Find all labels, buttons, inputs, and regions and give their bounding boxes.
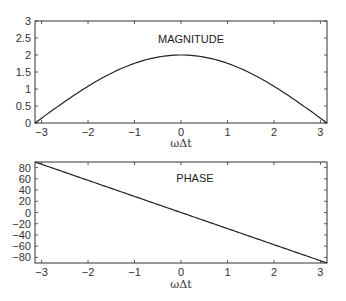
x-tick-label: −2 bbox=[82, 126, 95, 138]
x-tick-label: −3 bbox=[35, 126, 48, 138]
y-tick-label: 40 bbox=[19, 184, 31, 196]
y-tick-label: −80 bbox=[12, 251, 31, 263]
phase-xlabel: ωΔt bbox=[170, 278, 192, 291]
x-tick-label: 3 bbox=[317, 126, 323, 138]
x-tick-label: 3 bbox=[317, 266, 323, 278]
y-tick-label: 1 bbox=[25, 83, 31, 95]
x-tick-label: 1 bbox=[224, 266, 230, 278]
y-tick-label: 2.5 bbox=[16, 32, 31, 44]
y-tick-label: 0 bbox=[25, 207, 31, 219]
y-tick-label: 80 bbox=[19, 162, 31, 174]
y-tick-label: −40 bbox=[12, 229, 31, 241]
y-tick-label: 0 bbox=[25, 117, 31, 129]
magnitude-plot: −3−2−1012300.511.522.53 MAGNITUDE ωΔt bbox=[16, 15, 327, 150]
magnitude-title: MAGNITUDE bbox=[158, 33, 224, 45]
y-tick-label: 20 bbox=[19, 195, 31, 207]
y-tick-label: 0.5 bbox=[16, 100, 31, 112]
chart-figure: −3−2−1012300.511.522.53 MAGNITUDE ωΔt −3… bbox=[0, 0, 346, 301]
phase-title: PHASE bbox=[176, 172, 213, 184]
magnitude-xlabel: ωΔt bbox=[170, 137, 192, 150]
x-tick-label: −1 bbox=[128, 266, 141, 278]
x-tick-label: −1 bbox=[128, 126, 141, 138]
x-tick-label: 0 bbox=[178, 266, 184, 278]
x-tick-label: 2 bbox=[271, 126, 277, 138]
y-tick-label: 60 bbox=[19, 173, 31, 185]
phase-ticks: −3−2−10123−80−60−40−20020406080 bbox=[12, 162, 327, 278]
y-tick-label: −60 bbox=[12, 240, 31, 252]
y-tick-label: 1.5 bbox=[16, 66, 31, 78]
magnitude-curve bbox=[35, 55, 327, 123]
x-tick-label: 1 bbox=[224, 126, 230, 138]
phase-plot: −3−2−10123−80−60−40−20020406080 PHASE ωΔ… bbox=[12, 162, 327, 291]
x-tick-label: 2 bbox=[271, 266, 277, 278]
y-tick-label: 3 bbox=[25, 15, 31, 27]
y-tick-label: −20 bbox=[12, 218, 31, 230]
x-tick-label: −2 bbox=[82, 266, 95, 278]
x-tick-label: −3 bbox=[35, 266, 48, 278]
y-tick-label: 2 bbox=[25, 49, 31, 61]
